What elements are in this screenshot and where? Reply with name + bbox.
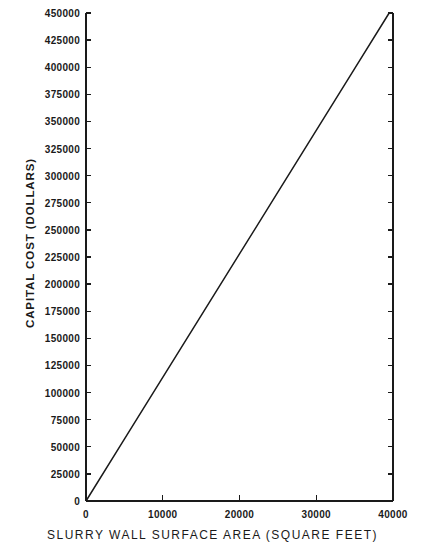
- x-axis-title: SLURRY WALL SURFACE AREA (SQUARE FEET): [0, 528, 425, 542]
- x-axis-tick-labels: 010000200003000040000: [0, 509, 425, 523]
- x-tick-label: 40000: [378, 509, 407, 520]
- chart-figure: CAPITAL COST (DOLLARS) 02500050000750001…: [0, 0, 425, 555]
- x-tick-label: 10000: [148, 509, 177, 520]
- x-tick-label: 0: [83, 509, 89, 520]
- x-tick-label: 20000: [225, 509, 254, 520]
- plot-area: [0, 0, 425, 555]
- x-tick-label: 30000: [302, 509, 331, 520]
- data-line-series-0: [86, 13, 389, 501]
